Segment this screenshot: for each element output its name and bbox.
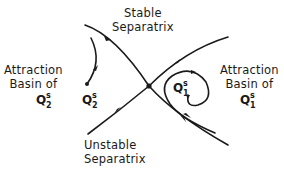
- unstable-separatrix-label: Unstable Separatrix: [84, 138, 146, 166]
- unstable-separatrix-line1: Unstable: [84, 138, 146, 152]
- q-sub: 2: [46, 100, 52, 112]
- basin-left-line2: Basin of: [4, 77, 63, 91]
- unstable-separatrix-line2: Separatrix: [84, 152, 146, 166]
- direction-arrows: [85, 36, 196, 122]
- basin-right-label: Attraction Basin of: [220, 63, 279, 91]
- q1-attractor-label: Q s 1: [173, 82, 183, 94]
- stable-separatrix-line2: Separatrix: [112, 20, 174, 34]
- stable-separatrix-upper: [85, 25, 149, 86]
- basin-left-line1: Attraction: [4, 63, 63, 77]
- q2-attractor-label: Q s 2: [82, 94, 92, 106]
- basin-right-line1: Attraction: [220, 63, 279, 77]
- q-base: Q: [240, 93, 250, 107]
- basin-right-line2: Basin of: [220, 77, 279, 91]
- q-base: Q: [36, 93, 46, 107]
- q-sub: 1: [250, 100, 256, 112]
- stable-separatrix-line1: Stable: [112, 6, 174, 20]
- q-base: Q: [173, 81, 183, 95]
- q-sub: 1: [183, 88, 189, 100]
- trajectory-to-q2: [87, 38, 96, 84]
- arrow-icon: [114, 107, 121, 114]
- saddle-point: [146, 83, 151, 88]
- unstable-separatrix-upper: [149, 37, 228, 86]
- q2-attractor-dot: [85, 82, 89, 86]
- basin-left-label: Attraction Basin of: [4, 63, 63, 91]
- q-sub: 2: [92, 100, 98, 112]
- phase-portrait-diagram: Stable Separatrix Attraction Basin of Q …: [0, 0, 284, 179]
- stable-separatrix-label: Stable Separatrix: [112, 6, 174, 34]
- q-base: Q: [82, 93, 92, 107]
- q2-basin-label: Q s 2: [36, 94, 46, 106]
- q1-basin-label: Q s 1: [240, 94, 250, 106]
